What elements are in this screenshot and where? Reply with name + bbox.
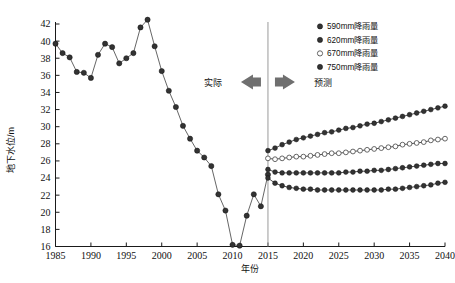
- data-point: [102, 41, 107, 46]
- data-point: [294, 137, 299, 142]
- series-2: [266, 136, 448, 161]
- series-0: [53, 17, 271, 248]
- x-tick-label: 2015: [258, 250, 278, 261]
- x-tick-label: 2025: [329, 250, 349, 261]
- y-tick-label: 22: [41, 190, 51, 201]
- data-point: [138, 25, 143, 30]
- data-point: [180, 123, 185, 128]
- data-point: [315, 132, 320, 137]
- series-1: [266, 104, 448, 153]
- data-point: [428, 162, 433, 167]
- data-point: [223, 208, 228, 213]
- y-axis-ticks: 1618202224262830323436384042: [41, 18, 60, 252]
- data-point: [124, 56, 129, 61]
- arrow-left-shape: [241, 75, 261, 90]
- data-point: [421, 109, 426, 114]
- data-point: [379, 146, 384, 151]
- axes-group: [56, 22, 446, 247]
- data-point: [315, 188, 320, 193]
- data-point: [407, 165, 412, 170]
- data-point: [266, 167, 271, 172]
- data-point: [301, 171, 306, 176]
- data-point: [407, 112, 412, 117]
- y-axis-title: 地下水位/m: [5, 127, 16, 173]
- data-point: [95, 52, 100, 57]
- data-point: [393, 166, 398, 171]
- data-point: [351, 149, 356, 154]
- data-point: [343, 150, 348, 155]
- x-tick-label: 2005: [187, 250, 207, 261]
- legend-label-2: 670mm降雨量: [327, 48, 378, 58]
- data-point: [266, 156, 271, 161]
- data-point: [322, 130, 327, 135]
- data-point: [351, 170, 356, 175]
- data-point: [386, 167, 391, 172]
- data-point: [152, 44, 157, 49]
- y-tick-label: 38: [41, 53, 51, 64]
- data-point: [421, 183, 426, 188]
- data-point: [301, 135, 306, 140]
- data-point: [343, 170, 348, 175]
- data-point: [407, 185, 412, 190]
- x-tick-label: 2010: [223, 250, 243, 261]
- data-point: [351, 125, 356, 130]
- data-point: [400, 142, 405, 147]
- data-point: [329, 171, 334, 176]
- data-point: [443, 104, 448, 109]
- arrow-right-icon: [275, 75, 295, 90]
- x-axis-ticks: 1985199019952000200520102015202020252030…: [46, 243, 455, 261]
- data-point: [329, 188, 334, 193]
- series-group: [53, 17, 448, 248]
- y-tick-label: 42: [41, 18, 51, 29]
- data-point: [393, 116, 398, 121]
- y-tick-label: 32: [41, 104, 51, 115]
- y-tick-label: 18: [41, 224, 51, 235]
- x-tick-label: 2035: [400, 250, 420, 261]
- y-tick-label: 40: [41, 36, 51, 47]
- chart-legend: 590mm降雨量620mm降雨量670mm降雨量750mm降雨量: [317, 21, 378, 72]
- data-point: [436, 137, 441, 142]
- data-point: [308, 134, 313, 139]
- data-point: [365, 169, 370, 174]
- data-point: [216, 192, 221, 197]
- data-point: [308, 187, 313, 192]
- data-point: [74, 69, 79, 74]
- data-point: [421, 140, 426, 145]
- data-point: [266, 148, 271, 153]
- arrow-right-shape: [275, 75, 295, 90]
- data-point: [166, 88, 171, 93]
- data-point: [400, 186, 405, 191]
- data-point: [358, 123, 363, 128]
- data-point: [407, 141, 412, 146]
- data-point: [443, 136, 448, 141]
- data-point: [294, 171, 299, 176]
- data-point: [173, 104, 178, 109]
- data-point: [428, 182, 433, 187]
- data-point: [244, 213, 249, 218]
- data-point: [428, 138, 433, 143]
- y-tick-label: 36: [41, 70, 51, 81]
- x-tick-label: 2000: [152, 250, 172, 261]
- data-point: [315, 171, 320, 176]
- data-point: [436, 105, 441, 110]
- data-point: [209, 163, 214, 168]
- data-point: [372, 147, 377, 152]
- data-point: [336, 171, 341, 176]
- data-point: [237, 243, 242, 248]
- data-point: [329, 129, 334, 134]
- data-point: [266, 176, 271, 181]
- data-point: [358, 169, 363, 174]
- data-point: [386, 187, 391, 192]
- legend-marker-2: [317, 51, 322, 56]
- data-point: [280, 156, 285, 161]
- legend-label-0: 590mm降雨量: [327, 21, 378, 31]
- x-axis-title: 年份: [241, 263, 259, 274]
- data-point: [336, 188, 341, 193]
- data-point: [428, 107, 433, 112]
- data-point: [273, 157, 278, 162]
- legend-marker-1: [317, 37, 322, 42]
- data-point: [372, 121, 377, 126]
- data-point: [386, 145, 391, 150]
- data-point: [443, 180, 448, 185]
- data-point: [280, 183, 285, 188]
